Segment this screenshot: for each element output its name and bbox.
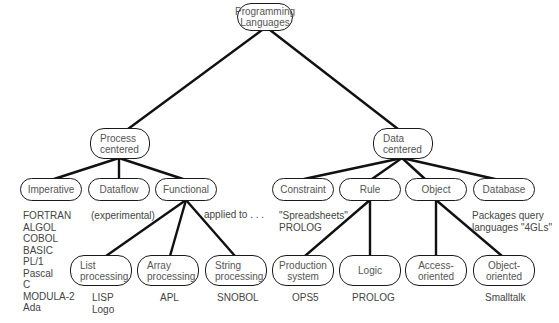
node-rule: Rule bbox=[339, 178, 401, 201]
node-logic: Logic bbox=[339, 255, 401, 286]
node-list-processing: List processing bbox=[70, 255, 132, 286]
edge-functional-list bbox=[106, 200, 186, 256]
annotation-functional: applied to . . . bbox=[204, 209, 264, 221]
annotation-imperative-languages: FORTRAN ALGOL COBOL BASIC PL/1 Pascal C … bbox=[23, 210, 75, 314]
edge-process-imperative bbox=[54, 158, 119, 179]
annotation-logic: PROLOG bbox=[352, 292, 395, 304]
node-database: Database bbox=[473, 178, 535, 201]
annotation-constraint: "Spreadsheets" PROLOG bbox=[279, 210, 348, 233]
annotation-database: Packages query languages "4GLs" bbox=[472, 210, 552, 233]
node-array-processing: Array processing bbox=[137, 255, 199, 286]
node-dataflow: Dataflow bbox=[88, 178, 150, 201]
node-data-centered: Data centered bbox=[373, 128, 433, 159]
annotation-production-system: OPS5 bbox=[292, 292, 319, 304]
node-access-oriented: Access- oriented bbox=[405, 255, 467, 286]
node-production-system: Production system bbox=[272, 255, 334, 286]
annotation-string-processing: SNOBOL bbox=[217, 292, 259, 304]
annotation-array-processing: APL bbox=[160, 292, 179, 304]
annotation-list-processing: LISP Logo bbox=[92, 292, 114, 315]
edge-root-data bbox=[270, 30, 398, 129]
node-object-oriented: Object- oriented bbox=[473, 255, 535, 286]
edge-process-functional bbox=[119, 158, 183, 179]
node-constraint: Constraint bbox=[272, 178, 334, 201]
edge-root-process bbox=[128, 30, 262, 129]
node-imperative: Imperative bbox=[20, 178, 82, 201]
node-object: Object bbox=[405, 178, 467, 201]
annotation-dataflow: (experimental) bbox=[91, 210, 155, 222]
node-programming-languages: Programming Languages bbox=[237, 3, 293, 31]
edge-data-database bbox=[402, 158, 495, 179]
annotation-object-oriented: Smalltalk bbox=[485, 292, 526, 304]
node-process-centered: Process centered bbox=[90, 128, 150, 159]
node-functional: Functional bbox=[155, 178, 217, 201]
node-string-processing: String processing bbox=[205, 255, 267, 286]
